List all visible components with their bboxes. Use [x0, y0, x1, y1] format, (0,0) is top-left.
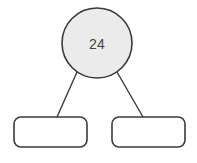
whole-node[interactable]: 24 — [62, 8, 132, 78]
right-part-node[interactable] — [112, 117, 185, 147]
left-part-node[interactable] — [14, 117, 87, 147]
right-part-box[interactable] — [112, 117, 185, 147]
left-part-box[interactable] — [14, 117, 87, 147]
diagram-canvas: 24 — [0, 0, 197, 163]
whole-node-value: 24 — [89, 36, 105, 52]
edge-whole-to-left-part — [57, 72, 77, 117]
number-bond-diagram: 24 — [0, 0, 197, 163]
edge-whole-to-right-part — [117, 72, 143, 117]
